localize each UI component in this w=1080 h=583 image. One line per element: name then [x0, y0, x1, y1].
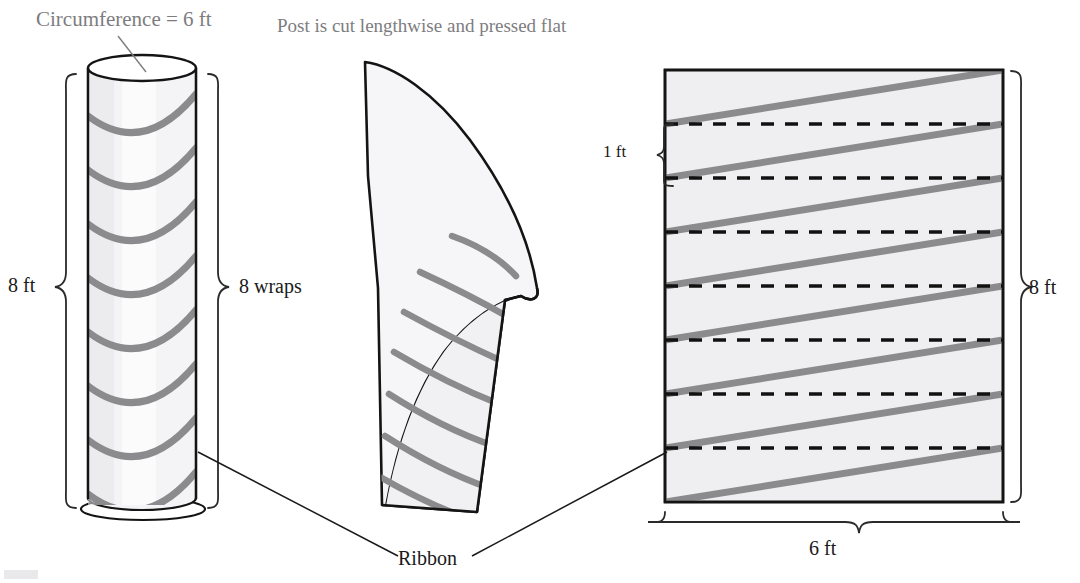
rectangle-height-label: 8 ft — [1029, 277, 1056, 297]
post-cut-label: Post is cut lengthwise and pressed flat — [277, 16, 566, 35]
circumference-label: Circumference = 6 ft — [36, 9, 212, 30]
ribbon-leader-right — [472, 452, 667, 556]
width-brace-bottom — [648, 512, 1020, 533]
ribbon-cylinder-diagram — [0, 0, 1080, 583]
rectangle-width-label: 6 ft — [809, 538, 836, 558]
cylinder-height-label: 8 ft — [8, 275, 35, 295]
ribbon-label: Ribbon — [398, 548, 457, 568]
cut-open-panel — [365, 62, 538, 524]
unrolled-rectangle-panel — [472, 70, 1032, 556]
ribbon-leader-left — [198, 452, 398, 556]
wrap-count-label: 8 wraps — [239, 276, 302, 296]
cylinder-top-ellipse — [88, 55, 196, 81]
one-foot-band-label: 1 ft — [603, 143, 626, 160]
cylinder-panel — [55, 36, 398, 556]
wraps-brace-right — [208, 74, 229, 508]
height-brace-left — [55, 74, 76, 508]
page-corner-artifact — [4, 570, 38, 579]
diagram-canvas: Circumference = 6 ft Post is cut lengthw… — [0, 0, 1080, 583]
